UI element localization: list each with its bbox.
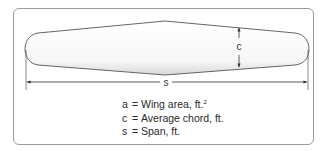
legend-description: Average chord, ft. (141, 112, 224, 124)
span-label: s (164, 77, 169, 88)
chord-label: c (237, 41, 242, 52)
legend-equals: = (132, 98, 141, 112)
legend-equals: = (132, 112, 141, 126)
legend-symbol: s (122, 125, 132, 139)
legend-row-span: s=Span, ft. (122, 125, 224, 139)
legend-symbol: a (122, 98, 132, 112)
legend-superscript: 2 (203, 99, 206, 105)
legend-description: Span, ft. (141, 125, 180, 137)
legend: a=Wing area, ft.2 c=Average chord, ft. s… (122, 96, 224, 139)
wing-shape (25, 21, 309, 75)
legend-row-area: a=Wing area, ft.2 (122, 96, 224, 112)
legend-symbol: c (122, 112, 132, 126)
legend-equals: = (132, 125, 141, 139)
legend-description: Wing area, ft. (141, 98, 203, 110)
legend-row-chord: c=Average chord, ft. (122, 112, 224, 126)
